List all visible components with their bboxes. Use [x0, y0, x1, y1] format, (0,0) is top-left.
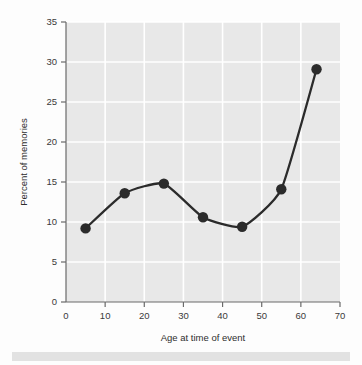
data-point-marker	[311, 64, 321, 74]
data-point-marker	[159, 178, 169, 188]
y-tick-label: 25	[46, 96, 57, 107]
y-tick-label: 5	[52, 256, 57, 267]
y-tick-label: 15	[46, 176, 57, 187]
y-tick-label: 30	[46, 56, 57, 67]
x-tick-label: 70	[335, 310, 346, 321]
figure-container: 05101520253035 010203040506070 Age at ti…	[0, 0, 362, 365]
data-point-marker	[120, 188, 130, 198]
x-tick-label: 40	[217, 310, 228, 321]
data-point-marker	[80, 223, 90, 233]
data-point-marker	[237, 222, 247, 232]
x-axis-ticks	[105, 302, 340, 307]
bottom-divider-band	[12, 352, 350, 361]
line-chart: 05101520253035 010203040506070 Age at ti…	[0, 0, 362, 365]
y-axis-title: Percent of memories	[18, 118, 29, 206]
y-axis-tick-labels: 05101520253035	[46, 16, 57, 307]
data-point-marker	[276, 184, 286, 194]
x-tick-label: 60	[296, 310, 307, 321]
x-tick-label: 50	[256, 310, 267, 321]
y-tick-label: 10	[46, 216, 57, 227]
y-tick-label: 20	[46, 136, 57, 147]
y-axis-ticks	[61, 22, 66, 302]
x-tick-label: 30	[178, 310, 189, 321]
y-tick-label: 0	[52, 296, 57, 307]
y-tick-label: 35	[46, 16, 57, 27]
x-tick-label: 20	[139, 310, 150, 321]
plot-area-background	[66, 22, 340, 302]
x-axis-title: Age at time of event	[161, 332, 246, 343]
x-tick-label: 0	[63, 310, 68, 321]
x-tick-label: 10	[100, 310, 111, 321]
data-point-marker	[198, 212, 208, 222]
x-axis-tick-labels: 010203040506070	[63, 310, 345, 321]
